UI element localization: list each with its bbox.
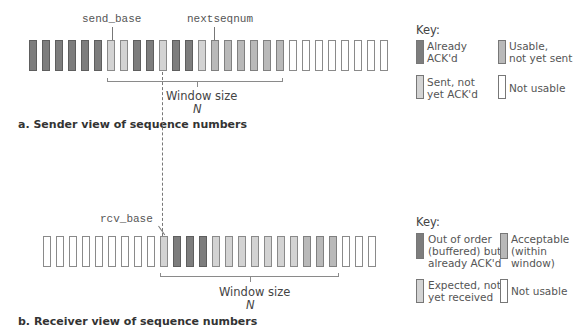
receiver-seq-box-white bbox=[95, 236, 103, 267]
receiver-seq-box-light bbox=[290, 236, 298, 267]
sender-seq-box-white bbox=[380, 40, 388, 71]
sender-seq-box-white bbox=[289, 40, 297, 71]
receiver-seq-box-dark bbox=[186, 236, 194, 267]
receiver-seq-box-medium bbox=[316, 236, 324, 267]
receiver-seq-box-white bbox=[82, 236, 90, 267]
sender-seq-box-dark bbox=[42, 40, 50, 71]
sender-seq-box-white bbox=[341, 40, 349, 71]
sender-seq-box-light bbox=[159, 40, 167, 71]
sender-seq-box-dark bbox=[185, 40, 193, 71]
receiver-seq-box-white bbox=[147, 236, 155, 267]
receiver-seq-box-white bbox=[368, 236, 376, 267]
sender-seq-box-light bbox=[120, 40, 128, 71]
receiver-seq-box-dark bbox=[173, 236, 181, 267]
sender-seq-box-white bbox=[302, 40, 310, 71]
key-label-not-usable: Not usable bbox=[509, 82, 565, 94]
sender-seq-box-white bbox=[354, 40, 362, 71]
sender-seq-box-dark bbox=[81, 40, 89, 71]
key-swatch-not-usable bbox=[498, 75, 506, 99]
nextseqnum-pointer bbox=[214, 27, 215, 40]
key-label-not-usable-rcv: Not usable bbox=[511, 285, 567, 297]
receiver-seq-box-light bbox=[264, 236, 272, 267]
sender-seq-box-medium bbox=[237, 40, 245, 71]
sender-window-bracket bbox=[107, 78, 283, 82]
sender-seq-box-light bbox=[198, 40, 206, 71]
sender-seq-box-dark bbox=[172, 40, 180, 71]
sender-seq-box-dark bbox=[133, 40, 141, 71]
key-label-usable-not-sent: Usable, not yet sent bbox=[509, 40, 572, 64]
receiver-seq-box-light bbox=[225, 236, 233, 267]
receiver-key-title: Key: bbox=[416, 215, 440, 229]
receiver-seq-box-white bbox=[121, 236, 129, 267]
receiver-window-n: N bbox=[246, 298, 255, 312]
receiver-seq-box-light bbox=[212, 236, 220, 267]
sender-seq-box-medium bbox=[276, 40, 284, 71]
send-base-label: send_base bbox=[82, 13, 141, 25]
sender-seq-box-white bbox=[328, 40, 336, 71]
receiver-seq-box-white bbox=[134, 236, 142, 267]
sender-seq-box-medium bbox=[263, 40, 271, 71]
receiver-seq-box-white bbox=[69, 236, 77, 267]
key-swatch-acceptable bbox=[500, 233, 508, 259]
receiver-seq-box-white bbox=[355, 236, 363, 267]
receiver-seq-box-white bbox=[56, 236, 64, 267]
key-label-out-of-order: Out of order (buffered) but already ACK'… bbox=[428, 233, 501, 269]
sender-seq-box-white bbox=[315, 40, 323, 71]
sender-window-tick bbox=[197, 82, 198, 87]
receiver-seq-box-white bbox=[342, 236, 350, 267]
sender-seq-box-dark bbox=[55, 40, 63, 71]
receiver-seq-box-light bbox=[238, 236, 246, 267]
base-alignment-dashed-line bbox=[162, 72, 163, 236]
sender-seq-box-dark bbox=[29, 40, 37, 71]
key-swatch-sent-not-acked bbox=[416, 75, 424, 99]
sender-seq-box-white bbox=[367, 40, 375, 71]
send-base-pointer bbox=[112, 27, 113, 40]
sender-seq-box-light bbox=[107, 40, 115, 71]
key-label-acceptable: Acceptable (within window) bbox=[511, 233, 569, 269]
sender-window-n: N bbox=[193, 102, 202, 116]
sender-seq-box-dark bbox=[68, 40, 76, 71]
key-swatch-out-of-order bbox=[416, 233, 424, 259]
sender-seq-box-medium bbox=[250, 40, 258, 71]
sender-seq-box-dark bbox=[146, 40, 154, 71]
sender-seq-box-medium bbox=[224, 40, 232, 71]
key-label-already-acked: Already ACK'd bbox=[427, 40, 467, 64]
key-label-sent-not-acked: Sent, not yet ACK'd bbox=[427, 76, 478, 100]
rcv-base-label: rcv_base bbox=[100, 213, 153, 225]
receiver-seq-box-light bbox=[251, 236, 259, 267]
key-swatch-not-usable-rcv bbox=[500, 279, 508, 303]
receiver-seq-box-medium bbox=[329, 236, 337, 267]
key-swatch-expected bbox=[416, 279, 424, 303]
sender-subtitle: a. Sender view of sequence numbers bbox=[18, 118, 247, 131]
nextseqnum-label: nextseqnum bbox=[187, 13, 253, 25]
receiver-seq-box-medium bbox=[303, 236, 311, 267]
receiver-seq-box-light bbox=[277, 236, 285, 267]
receiver-seq-box-dark bbox=[199, 236, 207, 267]
receiver-subtitle: b. Receiver view of sequence numbers bbox=[18, 315, 257, 328]
receiver-seq-box-white bbox=[43, 236, 51, 267]
receiver-window-label: Window size bbox=[219, 285, 290, 299]
receiver-seq-box-white bbox=[108, 236, 116, 267]
sender-key-title: Key: bbox=[416, 23, 440, 37]
receiver-seq-box-light bbox=[160, 236, 168, 267]
sender-seq-box-medium bbox=[211, 40, 219, 71]
sender-seq-box-dark bbox=[94, 40, 102, 71]
sender-window-label: Window size bbox=[166, 89, 237, 103]
key-swatch-usable-not-sent bbox=[498, 40, 506, 64]
key-swatch-already-acked bbox=[416, 40, 424, 64]
receiver-window-tick bbox=[250, 277, 251, 282]
key-label-expected: Expected, not yet received bbox=[428, 279, 501, 303]
